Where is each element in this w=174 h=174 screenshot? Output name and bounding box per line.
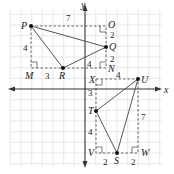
label-n: N [107, 63, 116, 74]
label-v: V [88, 147, 96, 158]
x-axis-left-arrow-icon [8, 87, 15, 92]
label-o: O [108, 19, 115, 30]
measure-sw: 2 [131, 157, 136, 167]
measure-tv: 4 [88, 127, 93, 137]
coordinate-plane: x y P Q R M O N U T S X V W [0, 0, 174, 174]
measure-vs: 2 [103, 157, 108, 167]
label-m: M [24, 70, 34, 81]
measure-mr: 3 [45, 71, 50, 81]
point-q [104, 45, 108, 49]
measure-po: 7 [66, 13, 71, 23]
measure-rn: 4 [87, 59, 92, 69]
x-axis-label: x [163, 84, 169, 95]
grid-lines [10, 10, 162, 166]
label-q: Q [109, 41, 117, 52]
x-axis-right-arrow-icon [155, 87, 162, 92]
point-u [136, 77, 140, 81]
point-t [94, 109, 98, 113]
label-x: X [88, 74, 96, 85]
label-p: P [20, 20, 27, 31]
measure-qn: 2 [110, 54, 115, 64]
point-p [29, 24, 33, 28]
label-u: U [141, 74, 149, 85]
label-w: W [141, 147, 151, 158]
label-s: S [114, 155, 119, 166]
measure-uw: 7 [141, 112, 146, 122]
measure-xt: 3 [88, 88, 93, 98]
y-axis-down-arrow-icon [83, 161, 88, 168]
label-r: R [58, 70, 65, 81]
measure-oq: 2 [110, 30, 115, 40]
y-axis-label: y [80, 0, 86, 10]
measure-pm: 4 [23, 43, 28, 53]
measure-xu: 4 [116, 70, 121, 80]
